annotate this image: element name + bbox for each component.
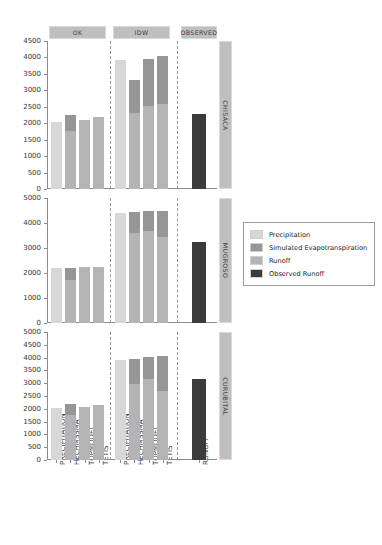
y-tick-mark xyxy=(44,460,47,461)
segment-precipitation xyxy=(115,213,126,324)
bar-mugroso-idw-topmodel xyxy=(143,211,154,324)
legend-label: Simulated Evapotranspiration xyxy=(269,244,367,252)
bar-curubital-idw-precipitation xyxy=(115,360,126,460)
column-facet-label: OBSERVED xyxy=(181,29,218,36)
y-tick-label: 5000 xyxy=(0,194,41,202)
segment-runoff xyxy=(65,415,76,460)
legend-item-simulated-evapotranspiration: Simulated Evapotranspiration xyxy=(250,241,368,254)
column-facet-strip-ok: OK xyxy=(49,26,106,39)
segment-precipitation xyxy=(51,408,62,460)
x-tick-mark xyxy=(56,460,57,463)
bar-chisaca-ok-tetis xyxy=(93,117,104,189)
y-tick-mark xyxy=(44,90,47,91)
segment-runoff xyxy=(79,267,90,323)
bar-chisaca-observed-runoff xyxy=(192,114,206,189)
y-tick-label: 4500 xyxy=(0,341,41,349)
y-tick-label: 3500 xyxy=(0,366,41,374)
y-tick-mark xyxy=(44,123,47,124)
legend-item-precipitation: Precipitation xyxy=(250,228,368,241)
bar-mugroso-ok-tetis xyxy=(93,267,104,323)
column-facet-label: IDW xyxy=(135,29,149,36)
y-tick-label: 3000 xyxy=(0,244,41,252)
bar-curubital-observed-runoff xyxy=(192,379,206,460)
bar-chisaca-ok-topmodel xyxy=(79,120,90,189)
y-tick-mark xyxy=(44,74,47,75)
segment-runoff xyxy=(129,384,140,460)
facet-separator xyxy=(110,41,111,189)
panel-curubital xyxy=(47,332,217,460)
y-tick-label: 0 xyxy=(0,319,41,327)
y-tick-label: 1000 xyxy=(0,152,41,160)
y-tick-label: 4000 xyxy=(0,354,41,362)
y-tick-mark xyxy=(44,107,47,108)
y-tick-label: 500 xyxy=(0,169,41,177)
column-facet-strip-idw: IDW xyxy=(113,26,170,39)
y-tick-mark xyxy=(44,57,47,58)
legend-item-runoff: Runoff xyxy=(250,254,368,267)
bar-chisaca-idw-hechmssma xyxy=(129,80,140,189)
row-facet-label: CURUBITAL xyxy=(222,377,229,415)
bar-mugroso-ok-hechmssma xyxy=(65,268,76,324)
bar-curubital-idw-hechmssma xyxy=(129,359,140,460)
legend-swatch-precipitation xyxy=(250,230,263,239)
facet-separator xyxy=(110,198,111,323)
y-tick-label: 500 xyxy=(0,443,41,451)
segment-runoff xyxy=(143,231,154,323)
x-tick-mark xyxy=(134,460,135,463)
segment-precipitation xyxy=(51,268,62,323)
faceted-bar-chart: OKIDWOBSERVEDCHISACAMUGROSOCURUBITAL0500… xyxy=(0,0,382,545)
bar-chisaca-ok-hechmssma xyxy=(65,115,76,189)
facet-separator xyxy=(177,41,178,189)
segment-runoff xyxy=(93,405,104,460)
y-tick-label: 0 xyxy=(0,456,41,464)
y-tick-label: 4500 xyxy=(0,37,41,45)
segment-runoff xyxy=(157,237,168,323)
bar-curubital-ok-topmodel xyxy=(79,407,90,460)
y-tick-mark xyxy=(44,370,47,371)
y-tick-mark xyxy=(44,248,47,249)
y-tick-mark xyxy=(44,273,47,274)
facet-separator xyxy=(177,332,178,460)
y-tick-label: 2000 xyxy=(0,405,41,413)
column-facet-label: OK xyxy=(73,29,83,36)
y-tick-mark xyxy=(44,189,47,190)
segment-precipitation xyxy=(115,360,126,460)
y-tick-mark xyxy=(44,332,47,333)
row-facet-strip-mugroso: MUGROSO xyxy=(219,198,232,323)
y-tick-label: 3000 xyxy=(0,86,41,94)
y-tick-label: 3000 xyxy=(0,379,41,387)
segment-simulated-evapotranspiration xyxy=(65,268,76,281)
segment-simulated-evapotranspiration xyxy=(143,357,154,379)
bar-chisaca-idw-precipitation xyxy=(115,60,126,189)
segment-observed-runoff xyxy=(192,242,206,323)
bar-curubital-ok-precipitation xyxy=(51,408,62,460)
y-tick-label: 4000 xyxy=(0,219,41,227)
legend-swatch-observed-runoff xyxy=(250,269,263,278)
bar-curubital-idw-tetis xyxy=(157,356,168,460)
y-tick-mark xyxy=(44,298,47,299)
column-facet-strip-observed: OBSERVED xyxy=(181,26,217,39)
y-tick-mark xyxy=(44,409,47,410)
bar-curubital-idw-topmodel xyxy=(143,357,154,460)
row-facet-strip-chisaca: CHISACA xyxy=(219,41,232,189)
bar-chisaca-idw-tetis xyxy=(157,56,168,189)
y-tick-mark xyxy=(44,156,47,157)
y-tick-mark xyxy=(44,345,47,346)
segment-runoff xyxy=(65,280,76,323)
legend-label: Observed Runoff xyxy=(269,270,324,278)
x-tick-mark xyxy=(120,460,121,463)
bar-mugroso-idw-precipitation xyxy=(115,213,126,324)
legend-label: Runoff xyxy=(269,257,290,265)
segment-simulated-evapotranspiration xyxy=(65,115,76,131)
y-tick-mark xyxy=(44,383,47,384)
y-tick-mark xyxy=(44,41,47,42)
segment-runoff xyxy=(93,117,104,189)
y-tick-label: 2000 xyxy=(0,119,41,127)
y-tick-label: 1000 xyxy=(0,294,41,302)
bar-mugroso-idw-tetis xyxy=(157,211,168,323)
segment-runoff xyxy=(143,379,154,460)
y-tick-label: 3500 xyxy=(0,70,41,78)
facet-separator xyxy=(110,332,111,460)
x-tick-mark xyxy=(199,460,200,463)
y-tick-label: 1500 xyxy=(0,418,41,426)
